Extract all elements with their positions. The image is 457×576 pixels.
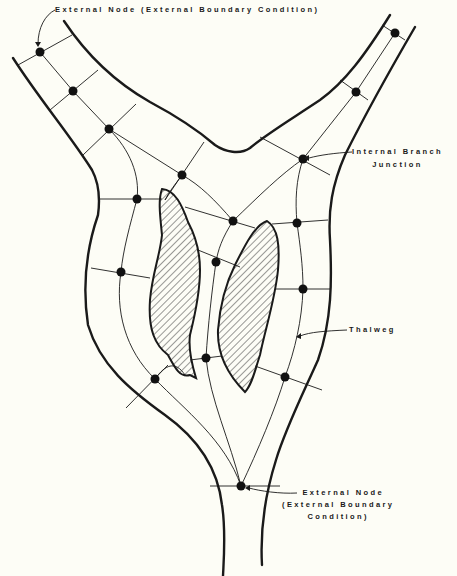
label-line: External Node (282, 487, 394, 499)
label-top-external-node: External Node (External Boundary Conditi… (55, 4, 319, 16)
node (178, 171, 187, 180)
node (151, 375, 160, 384)
node (212, 258, 221, 267)
external-node-bottom (237, 482, 246, 491)
external-node-upper-right (391, 29, 400, 38)
leader-top-external-node (38, 10, 55, 44)
label-line: Internal Branch (352, 146, 443, 158)
label-bottom-external-node: External Node (External Boundary Conditi… (282, 487, 394, 523)
node (117, 268, 126, 277)
label-line: (External Boundary (282, 499, 394, 511)
node (133, 195, 142, 204)
leader-thalweg (300, 330, 347, 336)
label-line: Junction (352, 159, 443, 171)
right-outer-bank (262, 27, 415, 565)
node (281, 373, 290, 382)
node (105, 125, 114, 134)
node (352, 88, 361, 97)
right-island (218, 221, 279, 392)
node (299, 285, 308, 294)
label-thalweg: Thalweg (349, 324, 396, 336)
islands (150, 189, 279, 392)
external-node-upper-left (36, 48, 45, 57)
node (69, 87, 78, 96)
node (293, 219, 302, 228)
label-line: Condition) (282, 511, 394, 523)
nodes (36, 29, 400, 491)
label-internal-branch-junction: Internal Branch Junction (352, 146, 443, 171)
node (229, 217, 238, 226)
left-island (150, 189, 200, 378)
node (202, 354, 211, 363)
